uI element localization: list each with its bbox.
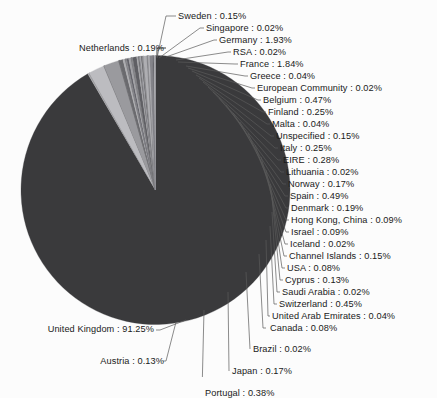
slice-label-canada: Canada : 0.08%: [270, 324, 337, 333]
slice-label-brazil: Brazil : 0.02%: [253, 345, 311, 354]
slice-label-european-community: European Community : 0.02%: [257, 84, 382, 93]
slice-label-portugal: Portugal : 0.38%: [205, 389, 274, 398]
slice-label-saudi-arabia: Saudi Arabia : 0.02%: [282, 288, 370, 297]
slice-label-switzerland: Switzerland : 0.45%: [279, 300, 362, 309]
slice-label-denmark: Denmark : 0.19%: [291, 204, 363, 213]
slice-label-norway: Norway : 0.17%: [288, 180, 354, 189]
slice-label-italy: Italy : 0.25%: [280, 144, 332, 153]
pie-slice-group: [21, 55, 290, 324]
slice-label-greece: Greece : 0.04%: [250, 72, 315, 81]
slice-label-germany: Germany : 1.93%: [219, 36, 292, 45]
slice-label-france: France : 1.84%: [240, 60, 304, 69]
slice-label-belgium: Belgium : 0.47%: [263, 96, 331, 105]
slice-label-singapore: Singapore : 0.02%: [206, 24, 283, 33]
leader-line: [228, 292, 229, 371]
slice-label-unspecified: Unspecified : 0.15%: [276, 132, 359, 141]
slice-label-usa: USA : 0.08%: [287, 264, 340, 273]
leader-line: [159, 28, 204, 58]
slice-label-uae: United Arab Emirates : 0.04%: [272, 312, 395, 321]
slice-label-japan: Japan : 0.17%: [232, 367, 292, 376]
slice-label-malta: Malta : 0.04%: [272, 120, 329, 129]
slice-label-israel: Israel : 0.09%: [291, 228, 348, 237]
slice-label-finland: Finland : 0.25%: [268, 108, 333, 117]
slice-label-rsa: RSA : 0.02%: [233, 48, 286, 57]
slice-label-spain: Spain : 0.49%: [290, 192, 348, 201]
slice-label-hong-kong: Hong Kong, China : 0.09%: [291, 216, 402, 225]
slice-label-iceland: Iceland : 0.02%: [290, 240, 355, 249]
slice-label-austria: Austria : 0.13%: [4, 357, 164, 366]
slice-label-cyprus: Cyprus : 0.13%: [285, 276, 349, 285]
slice-label-lithuania: Lithuania : 0.02%: [286, 168, 359, 177]
leader-line: [166, 40, 217, 57]
leader-line: [176, 52, 231, 60]
slice-label-sweden: Sweden : 0.15%: [178, 12, 246, 21]
slice-label-eire: EIRE : 0.28%: [283, 156, 339, 165]
slice-label-netherlands: Netherlands : 0.19%: [4, 44, 164, 53]
slice-label-united-kingdom: United Kingdom : 91.25%: [4, 325, 154, 334]
leader-line: [202, 310, 204, 377]
slice-label-channel-islands: Channel Islands : 0.15%: [289, 252, 391, 261]
